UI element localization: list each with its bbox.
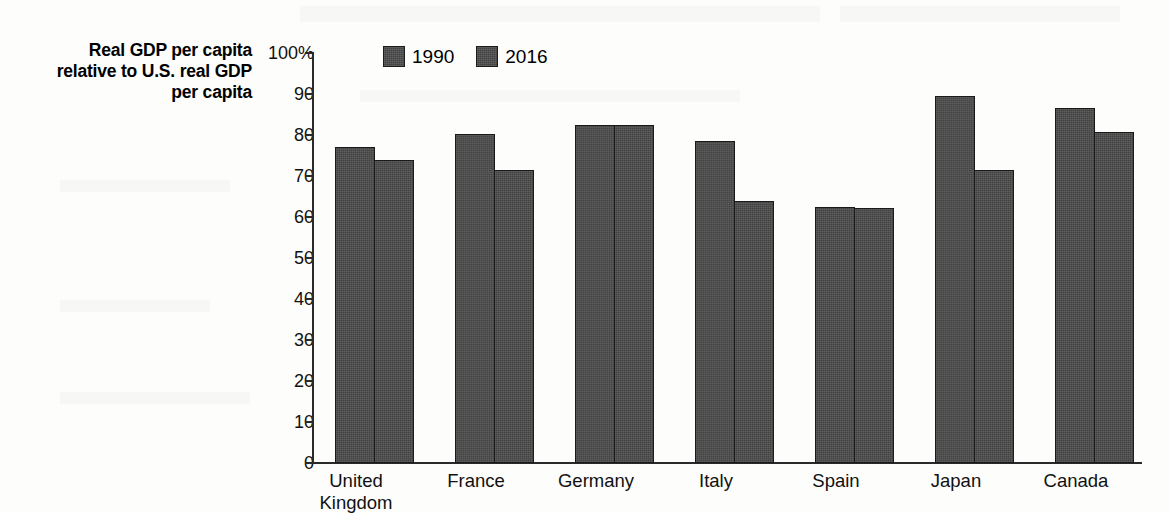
bar-italy-1990 [695,141,735,463]
bar-group-italy [695,52,774,463]
bar-group-united-kingdom [335,52,414,463]
plot-area [313,52,1142,463]
x-tick-label-canada: Canada [996,470,1156,492]
scan-artifact [840,6,1120,22]
y-axis-title-line-2: relative to U.S. real GDP [57,61,252,81]
bar-france-1990 [455,134,495,463]
bar-germany-1990 [575,125,615,463]
bar-group-japan [935,52,1014,463]
bar-group-germany [575,52,654,463]
bar-italy-2016 [734,201,774,463]
scan-artifact [60,392,250,404]
scan-artifact [60,300,210,312]
bar-canada-1990 [1055,108,1095,464]
x-tick-line-1: Canada [996,470,1156,492]
bar-japan-2016 [974,170,1014,463]
x-tick-line-2: Kingdom [276,492,436,513]
scan-artifact [300,6,820,22]
y-axis-title-line-1: Real GDP per capita [89,40,252,60]
bar-france-2016 [494,170,534,463]
y-axis-title: Real GDP per capita relative to U.S. rea… [20,40,252,103]
chart-figure: Real GDP per capita relative to U.S. rea… [0,0,1169,513]
bar-united-kingdom-2016 [374,160,414,463]
bar-group-france [455,52,534,463]
bar-spain-1990 [815,207,855,463]
scan-artifact [60,180,230,192]
bar-group-canada [1055,52,1134,463]
y-axis-title-line-3: per capita [171,82,252,102]
bar-japan-1990 [935,96,975,463]
bar-spain-2016 [854,208,894,463]
bar-group-spain [815,52,894,463]
bar-united-kingdom-1990 [335,147,375,463]
bar-germany-2016 [614,125,654,463]
bar-canada-2016 [1094,132,1134,463]
